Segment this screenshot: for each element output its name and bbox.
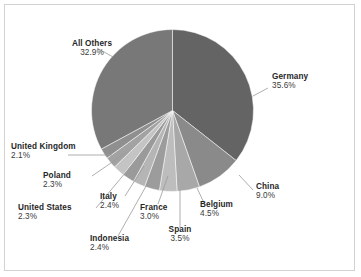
slice-label-belgium-percent: 4.5% — [200, 210, 233, 219]
leader-line-china — [239, 175, 253, 190]
slice-label-poland: Poland 2.3% — [43, 172, 71, 189]
slice-label-indonesia-percent: 2.4% — [90, 244, 129, 253]
slice-label-china-percent: 9.0% — [256, 192, 279, 201]
slice-label-united-states: United States 2.3% — [18, 204, 72, 221]
slice-label-spain: Spain 3.5% — [156, 226, 204, 243]
leader-line-germany — [253, 88, 268, 96]
slice-label-italy-percent: 2.4% — [100, 202, 119, 211]
slice-label-united-states-percent: 2.3% — [18, 213, 72, 222]
slice-label-france-percent: 3.0% — [140, 213, 167, 222]
slice-label-indonesia: Indonesia 2.4% — [90, 235, 129, 252]
slice-label-spain-percent: 3.5% — [156, 235, 204, 244]
slice-label-united-kingdom-percent: 2.1% — [11, 152, 76, 161]
slice-label-germany: Germany 35.6% — [272, 73, 308, 90]
slice-label-france: France 3.0% — [140, 204, 167, 221]
slice-label-china: China 9.0% — [256, 183, 279, 200]
slice-label-germany-percent: 35.6% — [272, 82, 308, 91]
slice-label-all-others-percent: 32.9% — [52, 49, 132, 58]
chart-page: All Others 32.9% Germany 35.6% China 9.0… — [0, 0, 361, 277]
slice-label-poland-percent: 2.3% — [43, 181, 71, 190]
slice-label-all-others: All Others 32.9% — [52, 40, 132, 57]
slice-label-belgium: Belgium 4.5% — [200, 201, 233, 218]
slice-label-italy: Italy 2.4% — [100, 193, 119, 210]
slice-label-united-kingdom: United Kingdom 2.1% — [11, 143, 76, 160]
